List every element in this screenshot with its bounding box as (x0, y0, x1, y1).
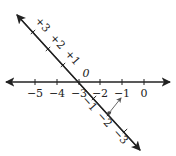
number-line-diagram: −5−4−3−2−10 +3+2+10−1−2−3 (0, 0, 176, 156)
d-tick-label: −2 (94, 109, 115, 130)
d-tick-label: +2 (47, 31, 68, 52)
diagram-canvas: −5−4−3−2−10 +3+2+10−1−2−3 (0, 0, 176, 156)
d-tick-label: −3 (110, 126, 131, 147)
mapping-arrow (107, 98, 121, 115)
d-tick-label: +3 (32, 14, 53, 35)
h-tick-label: −5 (27, 87, 43, 100)
h-tick-label: −1 (114, 87, 130, 100)
d-tick-label: +1 (62, 47, 83, 68)
h-tick-label: 0 (141, 87, 148, 100)
d-tick-label: 0 (83, 67, 90, 80)
arrow-icon (109, 98, 121, 113)
h-tick-label: −4 (49, 87, 65, 100)
